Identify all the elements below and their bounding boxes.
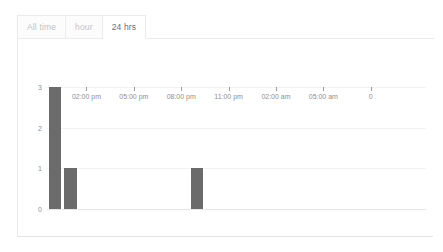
x-axis-tick-label: 0 [369, 93, 373, 100]
bar[interactable] [191, 168, 204, 209]
x-axis-tick-label: 11:00 pm [214, 93, 243, 100]
x-axis-tick [134, 87, 135, 91]
tab-hour-label: hour [75, 22, 93, 32]
y-axis-tick-label: 3 [38, 84, 42, 91]
x-axis-tick-label: 02:00 am [261, 93, 290, 100]
bar-chart-plot-area: 012302:00 pm05:00 pm08:00 pm11:00 pm02:0… [47, 87, 426, 209]
y-axis-tick-label: 0 [38, 206, 42, 213]
x-axis-tick-label: 02:00 pm [72, 93, 101, 100]
bar[interactable] [49, 87, 62, 209]
timerange-tabstrip: All time hour 24 hrs [18, 15, 146, 39]
x-axis-tick [229, 87, 230, 91]
x-axis-tick [323, 87, 324, 91]
screenshot-root: All time hour 24 hrs 012302:00 pm05:00 p… [0, 0, 443, 252]
x-axis-tick [86, 87, 87, 91]
x-axis-tick [276, 87, 277, 91]
x-axis-tick [371, 87, 372, 91]
y-axis-tick-label: 1 [38, 165, 42, 172]
x-axis-tick-label: 05:00 am [309, 93, 338, 100]
y-gridline: 3 [47, 87, 426, 88]
y-gridline: 0 [47, 209, 426, 210]
y-axis-tick-label: 2 [38, 124, 42, 131]
bar[interactable] [64, 168, 77, 209]
tab-24-hrs[interactable]: 24 hrs [103, 15, 147, 39]
tab-all-time[interactable]: All time [18, 15, 66, 39]
activity-chart-card: All time hour 24 hrs 012302:00 pm05:00 p… [17, 15, 433, 237]
x-axis-tick-label: 05:00 pm [119, 93, 148, 100]
y-gridline: 2 [47, 128, 426, 129]
x-axis-tick-label: 08:00 pm [167, 93, 196, 100]
tab-hour[interactable]: hour [66, 15, 103, 39]
y-gridline: 1 [47, 168, 426, 169]
x-axis-tick [181, 87, 182, 91]
tab-24-hrs-label: 24 hrs [112, 22, 137, 32]
tab-all-time-label: All time [27, 22, 56, 32]
